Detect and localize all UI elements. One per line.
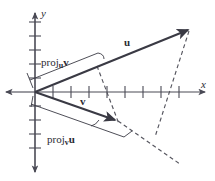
proj-u-v-label: projuv (41, 57, 69, 70)
vector-v-label: v (80, 96, 86, 107)
v-extension-line (118, 121, 180, 164)
proj-v-u-bracket-start-tick (31, 96, 33, 107)
vector-projection-figure: y x u v projuv projvu (0, 0, 215, 181)
y-axis-label: y (41, 8, 46, 19)
vector-v-arrow (35, 92, 115, 120)
proj-v-u-label: projvu (47, 134, 75, 147)
proj-u-v-label-operand: v (63, 56, 69, 68)
proj-u-v-bracket-start-tick (27, 73, 33, 88)
proj-v-u-bracket-end (124, 131, 132, 137)
proj-u-v-label-prefix: proj (41, 56, 59, 68)
proj-u-v-bracket-hook (98, 53, 104, 59)
proj-v-u-bracket-hook (91, 120, 99, 126)
diagram-canvas (0, 0, 215, 181)
vector-u-label: u (124, 37, 130, 48)
x-axis-label: x (201, 79, 206, 90)
proj-v-u-label-operand: u (69, 133, 75, 145)
proj-v-u-bracket-rail (31, 104, 124, 137)
proj-v-u-label-prefix: proj (47, 133, 65, 145)
perpendicular-from-v-to-u-line (155, 31, 189, 137)
